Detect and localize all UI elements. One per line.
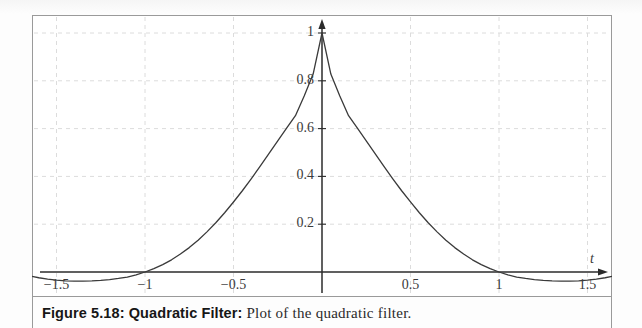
y-tick-label: 0.4 xyxy=(256,167,314,183)
axes xyxy=(40,19,608,293)
y-tick-label: 0.6 xyxy=(256,120,314,136)
x-tick-label: −1.5 xyxy=(27,277,87,293)
x-tick-label: 1 xyxy=(469,277,529,293)
scan-noise-band xyxy=(0,0,642,14)
caption-label: Figure 5.18: Quadratic Filter: xyxy=(42,305,242,321)
caption-left-rule xyxy=(32,296,33,328)
caption-text: Plot of the quadratic filter. xyxy=(242,305,411,321)
y-tick-label: 1 xyxy=(256,24,314,40)
y-tick-label: 0.8 xyxy=(256,72,314,88)
y-tick-label: 0.2 xyxy=(256,215,314,231)
x-tick-label: −0.5 xyxy=(204,277,264,293)
figure-caption: Figure 5.18: Quadratic Filter: Plot of t… xyxy=(42,301,608,325)
caption-right-rule xyxy=(611,296,612,328)
x-tick-label: 0.5 xyxy=(381,277,441,293)
quadratic-filter-plot xyxy=(32,15,612,297)
x-tick-label: 1.5 xyxy=(558,277,618,293)
figure-container: −1.5−1−0.50.511.50.20.40.60.81 t Figure … xyxy=(0,0,642,328)
x-axis-label: t xyxy=(590,251,594,267)
x-tick-label: −1 xyxy=(115,277,175,293)
